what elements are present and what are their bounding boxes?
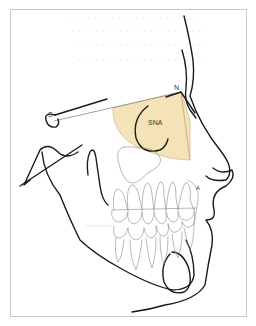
cranial-base-line xyxy=(55,99,107,115)
zygomatic-line xyxy=(20,145,82,186)
label-a-point: A xyxy=(196,185,200,191)
label-sella: S xyxy=(48,111,53,118)
mandible-outline xyxy=(42,152,194,290)
coronoid-curve xyxy=(87,150,108,205)
figure-frame xyxy=(11,10,247,317)
label-nasion: N xyxy=(174,84,179,91)
label-angle: SNA xyxy=(148,119,163,126)
teeth xyxy=(112,182,196,270)
cephalometric-diagram: S N SNA A xyxy=(0,0,256,326)
faint-background-text xyxy=(70,18,208,60)
soft-tissue-profile xyxy=(132,16,233,312)
